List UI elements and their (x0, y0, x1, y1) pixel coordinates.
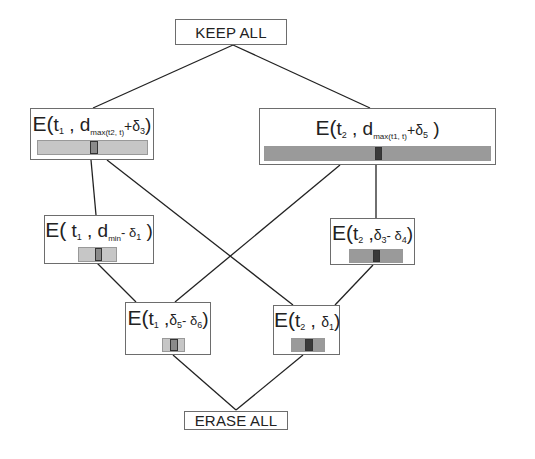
node-label: E(t2 , dmax(t1, t)+δ5 ) (260, 118, 495, 147)
range-marker (305, 339, 313, 351)
range-bar (162, 338, 185, 352)
node-sep: , (305, 310, 321, 331)
node-e-t2-d1: E(t2 , δ1) (273, 305, 340, 355)
node-sep: , (363, 223, 374, 244)
range-bar (264, 146, 491, 161)
node-arg: d (363, 118, 374, 139)
node-func: E( (33, 112, 54, 135)
keep-all-label: KEEP ALL (195, 24, 266, 41)
edge-n6-erase (236, 355, 303, 410)
range-marker (375, 147, 382, 160)
node-rest: - δ (387, 228, 402, 243)
node-func: E( (274, 308, 295, 331)
node-arg-sub: min (108, 234, 121, 243)
node-sep: , (347, 118, 363, 139)
node-arg: d (80, 114, 91, 135)
node-e-t1-d5-d6: E(t1 ,δ5- δ6) (125, 302, 211, 355)
range-marker (373, 250, 380, 262)
erase-all-node: ERASE ALL (184, 411, 288, 430)
node-arg: d (98, 220, 109, 241)
node-arg: δ (321, 314, 329, 330)
edge-n3-n5 (96, 262, 136, 302)
node-label: E(t1 , dmax(t2, t)+δ3) (31, 114, 153, 143)
node-sep: , (159, 308, 170, 329)
node-close: ) (428, 118, 440, 139)
node-rest: - δ (121, 225, 136, 240)
node-sep: , (64, 114, 80, 135)
range-marker (90, 141, 98, 154)
erase-all-label: ERASE ALL (195, 412, 278, 429)
node-sep: , (82, 220, 98, 241)
edge-keep-n2 (233, 45, 370, 108)
node-func: E( (45, 218, 66, 241)
node-close: ) (141, 220, 153, 241)
range-bar (291, 338, 325, 352)
node-label: E(t2 , δ1) (274, 310, 339, 337)
range-bar (37, 140, 148, 155)
node-label: E(t1 ,δ5- δ6) (126, 308, 210, 335)
node-close: ) (334, 310, 340, 331)
node-func: E( (332, 221, 353, 244)
node-func: E( (315, 116, 336, 139)
node-e-t2-d3-d4: E(t2 ,δ3- δ4) (330, 218, 415, 265)
node-rest: +δ (407, 122, 423, 138)
edge-n4-n6 (335, 265, 373, 305)
node-label: E( t1 , dmin- δ1 ) (45, 220, 153, 249)
node-label: E(t2 ,δ3- δ4) (331, 223, 414, 250)
node-arg: δ (169, 312, 177, 328)
node-t: t (66, 220, 77, 241)
node-e-t1-dmin: E( t1 , dmin- δ1 ) (44, 215, 154, 264)
edge-keep-n1 (93, 45, 233, 108)
node-rest: - δ (182, 313, 197, 328)
node-arg-sub: max(t1, t) (373, 132, 407, 141)
node-func: E( (127, 306, 148, 329)
node-close: ) (407, 223, 413, 244)
edge-n1-n3 (91, 160, 96, 215)
node-arg-sub: max(t2, t) (90, 128, 124, 137)
edge-n2-n5 (175, 165, 340, 302)
node-arg: δ (374, 227, 382, 243)
node-close: ) (145, 114, 151, 135)
range-bar (349, 249, 403, 263)
node-rest: +δ (124, 118, 140, 134)
node-e-t2-dmax: E(t2 , dmax(t1, t)+δ5 ) (259, 108, 496, 165)
range-marker (170, 339, 178, 351)
range-marker (95, 248, 102, 261)
range-bar (78, 247, 117, 262)
node-close: ) (202, 308, 208, 329)
edge-n5-erase (173, 355, 236, 410)
node-e-t1-dmax: E(t1 , dmax(t2, t)+δ3) (30, 108, 154, 160)
keep-all-node: KEEP ALL (175, 19, 287, 45)
